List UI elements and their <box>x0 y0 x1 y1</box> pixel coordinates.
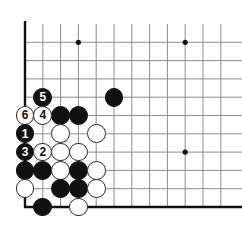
stone-move-number: 5 <box>39 91 46 103</box>
stone-move-number: 1 <box>22 128 29 140</box>
go-board-diagram: 564132 <box>0 0 242 237</box>
white-stone[interactable] <box>87 179 106 198</box>
black-stone[interactable] <box>51 179 70 198</box>
numbered-stone-6[interactable]: 6 <box>16 106 35 125</box>
black-stone[interactable] <box>33 198 52 217</box>
white-stone[interactable] <box>51 143 70 162</box>
stone-layer: 564132 <box>0 0 242 237</box>
black-stone[interactable] <box>69 106 88 125</box>
white-stone[interactable] <box>69 198 88 217</box>
numbered-stone-1[interactable]: 1 <box>16 124 35 143</box>
white-stone[interactable] <box>51 124 70 143</box>
white-stone[interactable] <box>51 161 70 180</box>
stone-move-number: 3 <box>22 146 29 158</box>
numbered-stone-4[interactable]: 4 <box>33 106 52 125</box>
white-stone[interactable] <box>87 124 106 143</box>
stone-move-number: 4 <box>39 109 46 121</box>
black-stone[interactable] <box>69 161 88 180</box>
numbered-stone-2[interactable]: 2 <box>33 143 52 162</box>
white-stone[interactable] <box>87 161 106 180</box>
white-stone[interactable] <box>69 143 88 162</box>
numbered-stone-5[interactable]: 5 <box>33 88 52 107</box>
black-stone[interactable] <box>33 161 52 180</box>
black-stone[interactable] <box>105 88 124 107</box>
black-stone[interactable] <box>69 179 88 198</box>
black-stone[interactable] <box>16 161 35 180</box>
stone-move-number: 6 <box>22 109 29 121</box>
numbered-stone-3[interactable]: 3 <box>16 143 35 162</box>
black-stone[interactable] <box>51 106 70 125</box>
white-stone[interactable] <box>16 179 35 198</box>
stone-move-number: 2 <box>39 146 46 158</box>
